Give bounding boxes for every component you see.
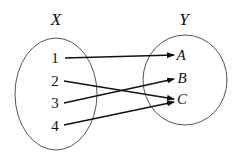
arrow-1-to-a	[65, 55, 174, 58]
set-y-label: Y	[179, 10, 190, 29]
arrow-2-to-c	[64, 81, 174, 99]
element-2: 2	[51, 73, 59, 89]
element-4: 4	[51, 118, 59, 134]
mapping-diagram: X Y 1 2 3 4 A B C	[0, 0, 239, 156]
element-c: C	[177, 91, 188, 107]
element-a: A	[175, 47, 186, 63]
set-x-label: X	[50, 10, 62, 29]
arrow-3-to-b	[64, 79, 174, 103]
element-b: B	[177, 70, 186, 86]
element-1: 1	[51, 50, 59, 66]
element-3: 3	[51, 95, 59, 111]
